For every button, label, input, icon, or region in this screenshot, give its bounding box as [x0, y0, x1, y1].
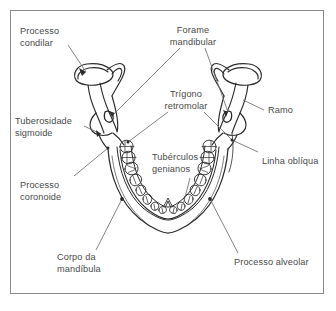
label-forame-mandibular: Forame mandibular [170, 25, 216, 48]
leader-trigono-right [204, 112, 232, 140]
leader-processo-coronoide [74, 148, 108, 176]
leader-trigono-left [128, 112, 168, 142]
label-processo-alveolar: Processo alveolar [234, 257, 309, 269]
label-tuberosidade-sigmoide: Tuberosidade sigmoide [15, 116, 72, 139]
label-tuberculos-genianos: Tubérculos genianos [152, 152, 198, 175]
leader-corpo-mandibula [96, 199, 122, 250]
ramus-left [88, 83, 118, 133]
leader-processo-condilar [68, 45, 86, 72]
retromolar-trigone-left [113, 133, 124, 145]
leader-ramo [243, 100, 264, 110]
leader-arrowheads [79, 68, 234, 201]
figure-page: Processo condilar Tuberosidade sigmoide … [0, 0, 336, 311]
label-processo-condilar: Processo condilar [20, 26, 59, 49]
leader-tuberculos-genianos [183, 178, 190, 205]
retromolar-trigone-right [212, 133, 223, 145]
label-ramo: Ramo [268, 105, 293, 117]
leader-lines [68, 45, 264, 253]
label-linha-obliqua: Linha oblíqua [262, 156, 318, 168]
leader-processo-alveolar [210, 199, 238, 253]
ramus-right [218, 83, 248, 133]
condyle-left [75, 64, 113, 86]
genial-tubercles [164, 198, 172, 206]
label-trigono-retromolar: Trígono retromolar [165, 89, 208, 112]
leader-linha-obliqua [232, 140, 258, 152]
tuberosity-sigmoid-left [90, 113, 112, 149]
tuberosity-sigmoid-right [224, 113, 246, 149]
leader-forame-right [205, 48, 228, 112]
label-corpo-da-mandibula: Corpo da mandíbula [57, 252, 101, 275]
label-processo-coronoide: Processo coronoide [20, 180, 61, 203]
condyle-right [223, 64, 261, 86]
